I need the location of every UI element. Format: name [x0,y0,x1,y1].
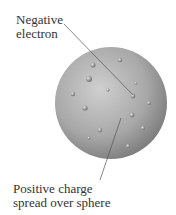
electron-label: Negative electron [16,13,63,41]
plum-pudding-model-diagram: Negative electron Positive charge spread… [0,0,176,215]
positive-charge-label: Positive charge spread over sphere [13,182,110,210]
